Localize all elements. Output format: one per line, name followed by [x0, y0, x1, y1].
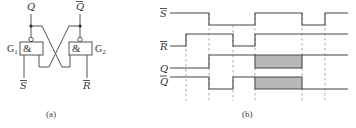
- gate-g1-label: G1: [7, 43, 18, 56]
- waveform-q-bar-part1: [170, 77, 255, 89]
- waveform-r-bar: [170, 34, 348, 46]
- sr-latch-figure: Q Q & & G1 G2 S R (a): [0, 0, 356, 128]
- gate-g2-label: G2: [95, 43, 106, 56]
- output-label-q-bar: Q: [76, 1, 84, 12]
- circuit-diagram: Q Q & & G1 G2 S R (a): [7, 1, 106, 119]
- signal-label-q: Q: [160, 63, 168, 74]
- indeterminate-region-q-bar: [255, 77, 302, 89]
- gate-g1-symbol: &: [23, 42, 32, 54]
- feedback-wire-q-to-g2: [31, 26, 70, 67]
- timing-diagram: S R Q Q (b): [159, 8, 348, 119]
- output-label-q: Q: [27, 1, 35, 12]
- indeterminate-region-q: [255, 55, 302, 68]
- input-label-s-bar: S: [20, 80, 27, 91]
- signal-label-s-bar: S: [160, 8, 167, 19]
- signal-label-r-bar: R: [159, 41, 168, 52]
- input-label-r-bar: R: [82, 80, 91, 91]
- caption-b: (b): [242, 109, 253, 119]
- signal-label-q-bar: Q: [160, 76, 168, 87]
- caption-a: (a): [46, 109, 56, 119]
- gate-g2-symbol: &: [72, 42, 81, 54]
- waveform-q-part1: [170, 55, 255, 68]
- waveform-s-bar: [170, 13, 348, 25]
